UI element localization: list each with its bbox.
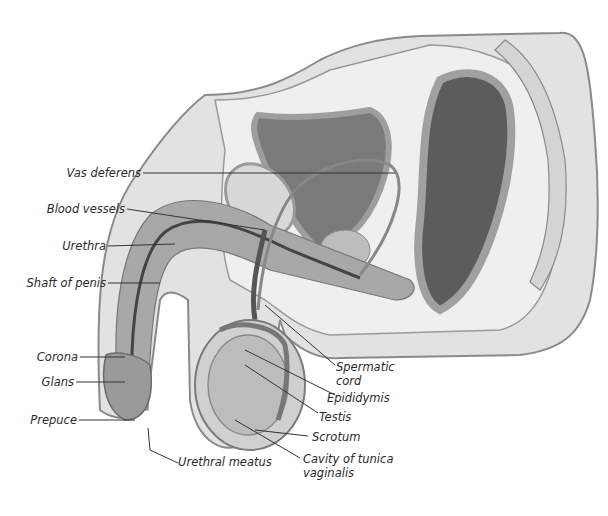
label-blood-vessels: Blood vessels [30, 202, 125, 216]
label-urethra: Urethra [40, 239, 106, 253]
label-prepuce: Prepuce [10, 413, 77, 427]
anatomy-figure: Vas deferens Blood vessels Urethra Shaft… [0, 0, 608, 516]
label-spermatic-cord-line2: cord [336, 374, 361, 388]
label-epididymis: Epididymis [327, 391, 390, 405]
label-glans: Glans [20, 375, 74, 389]
label-urethral-meatus: Urethral meatus [178, 455, 272, 469]
label-cavity-tunica-line1: Cavity of tunica [303, 452, 393, 466]
label-testis: Testis [319, 410, 351, 424]
label-corona: Corona [20, 350, 78, 364]
label-cavity-tunica-line2: vaginalis [303, 466, 354, 480]
label-shaft-of-penis: Shaft of penis [10, 276, 106, 290]
label-scrotum: Scrotum [312, 430, 360, 444]
anatomy-illustration [0, 0, 608, 516]
label-spermatic-cord-line1: Spermatic [336, 360, 395, 374]
label-vas-deferens: Vas deferens [55, 166, 141, 180]
